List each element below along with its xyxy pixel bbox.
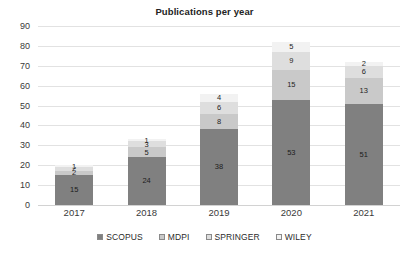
y-axis-tick-40: 40 <box>20 120 30 130</box>
bar-value-label: 6 <box>217 104 221 112</box>
bar-value-label: 3 <box>144 141 148 149</box>
bar-segment-2021-wiley[interactable]: 2 <box>345 62 383 66</box>
bar-group-2020[interactable]: 531595 <box>255 26 327 205</box>
bar-segment-2018-mdpi[interactable]: 5 <box>128 147 166 157</box>
axis-baseline <box>38 205 400 206</box>
y-axis-tick-90: 90 <box>20 21 30 31</box>
bar-segment-2019-wiley[interactable]: 4 <box>200 94 238 102</box>
bar-segment-2018-wiley[interactable]: 1 <box>128 139 166 141</box>
publications-per-year-chart: Publications per year 908070605040302010… <box>0 0 409 254</box>
bar-value-label: 13 <box>360 87 368 95</box>
bar-value-label: 6 <box>362 68 366 76</box>
bar-value-label: 5 <box>144 149 148 157</box>
bar-group-2021[interactable]: 511362 <box>328 26 400 205</box>
bar-segment-2017-springer[interactable]: 2 <box>55 167 93 171</box>
bar-value-label: 5 <box>289 43 293 51</box>
legend-label: WILEY <box>285 232 312 242</box>
x-axis-tick-2019: 2019 <box>183 207 255 218</box>
y-axis-tick-0: 0 <box>25 200 30 210</box>
legend-swatch-icon-springer <box>206 234 212 240</box>
legend-swatch-icon-wiley <box>276 234 282 240</box>
legend-label: MDPI <box>168 232 190 242</box>
bar-stack-2020: 531595 <box>272 42 310 205</box>
bar-value-label: 4 <box>217 94 221 102</box>
bar-segment-2018-scopus[interactable]: 24 <box>128 157 166 205</box>
bar-value-label: 53 <box>287 149 295 157</box>
bar-segment-2021-springer[interactable]: 6 <box>345 66 383 78</box>
chart-title: Publications per year <box>0 6 409 17</box>
x-axis: 20172018201920202021 <box>38 207 400 225</box>
bar-segment-2017-mdpi[interactable]: 2 <box>55 171 93 175</box>
bar-value-label: 8 <box>217 118 221 126</box>
bar-segment-2020-springer[interactable]: 9 <box>272 52 310 70</box>
legend-item-scopus[interactable]: SCOPUS <box>97 232 143 242</box>
x-axis-tick-2018: 2018 <box>111 207 183 218</box>
bar-segment-2021-mdpi[interactable]: 13 <box>345 78 383 104</box>
bar-value-label: 38 <box>215 163 223 171</box>
legend-label: SPRINGER <box>215 232 260 242</box>
bar-value-label: 15 <box>70 186 78 194</box>
y-axis-tick-20: 20 <box>20 160 30 170</box>
y-axis-tick-80: 80 <box>20 41 30 51</box>
bar-segment-2020-wiley[interactable]: 5 <box>272 42 310 52</box>
plot-area: 152212453138864531595511362 <box>38 26 400 205</box>
bar-segment-2017-scopus[interactable]: 15 <box>55 175 93 205</box>
bar-segment-2021-scopus[interactable]: 51 <box>345 104 383 205</box>
x-axis-tick-2021: 2021 <box>328 207 400 218</box>
y-axis-tick-30: 30 <box>20 140 30 150</box>
bar-stack-2019: 38864 <box>200 94 238 205</box>
bar-stack-2017: 15221 <box>55 165 93 205</box>
bar-stack-2021: 511362 <box>345 62 383 205</box>
legend-item-springer[interactable]: SPRINGER <box>206 232 260 242</box>
y-axis-tick-70: 70 <box>20 61 30 71</box>
bar-group-2019[interactable]: 38864 <box>183 26 255 205</box>
bar-segment-2020-scopus[interactable]: 53 <box>272 100 310 205</box>
bar-segment-2019-mdpi[interactable]: 8 <box>200 114 238 130</box>
x-axis-tick-2017: 2017 <box>38 207 110 218</box>
y-axis-tick-10: 10 <box>20 180 30 190</box>
bar-groups: 152212453138864531595511362 <box>38 26 400 205</box>
legend-label: SCOPUS <box>106 232 143 242</box>
bar-segment-2018-springer[interactable]: 3 <box>128 141 166 147</box>
legend-item-wiley[interactable]: WILEY <box>276 232 312 242</box>
y-axis-tick-60: 60 <box>20 81 30 91</box>
legend-item-mdpi[interactable]: MDPI <box>159 232 190 242</box>
bar-segment-2019-scopus[interactable]: 38 <box>200 129 238 205</box>
legend-swatch-icon-mdpi <box>159 234 165 240</box>
bar-value-label: 9 <box>289 57 293 65</box>
chart-legend: SCOPUSMDPISPRINGERWILEY <box>0 232 409 242</box>
bar-value-label: 15 <box>287 81 295 89</box>
y-axis-tick-50: 50 <box>20 101 30 111</box>
legend-swatch-icon-scopus <box>97 234 103 240</box>
bar-value-label: 24 <box>142 177 150 185</box>
y-axis: 9080706050403020100 <box>0 26 34 205</box>
bar-stack-2018: 24531 <box>128 139 166 205</box>
bar-group-2018[interactable]: 24531 <box>111 26 183 205</box>
bar-segment-2019-springer[interactable]: 6 <box>200 102 238 114</box>
bar-value-label: 51 <box>360 151 368 159</box>
bar-segment-2017-wiley[interactable]: 1 <box>55 165 93 167</box>
x-axis-tick-2020: 2020 <box>255 207 327 218</box>
bar-group-2017[interactable]: 15221 <box>38 26 110 205</box>
bar-segment-2020-mdpi[interactable]: 15 <box>272 70 310 100</box>
